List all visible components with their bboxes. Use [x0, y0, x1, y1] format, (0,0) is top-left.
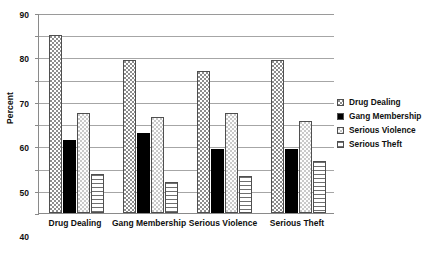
bar-group: [197, 14, 252, 213]
y-axis-tick-label: 50: [20, 188, 29, 198]
bar: [165, 182, 178, 213]
chart-legend: Drug DealingGang MembershipSerious Viole…: [337, 95, 431, 151]
bar-group: [123, 14, 178, 213]
legend-label: Serious Violence: [349, 125, 416, 135]
y-axis-tick-mark: 0: [35, 214, 39, 215]
legend-item: Gang Membership: [337, 109, 431, 123]
y-axis-title: Percent: [2, 0, 18, 215]
y-axis-tick-label: 70: [20, 99, 29, 109]
bar: [313, 161, 326, 213]
bar: [91, 174, 104, 213]
bar: [151, 117, 164, 213]
legend-item: Drug Dealing: [337, 95, 431, 109]
x-axis-label: Drug Dealing: [49, 218, 102, 228]
bar-group: [49, 14, 104, 213]
y-axis-tick-label: 80: [20, 54, 29, 64]
x-axis-label: Gang Membership: [112, 218, 186, 228]
legend-label: Gang Membership: [349, 111, 421, 121]
bar: [63, 140, 76, 213]
legend-item: Serious Theft: [337, 137, 431, 151]
bar: [239, 176, 252, 213]
x-axis-label: Serious Violence: [189, 218, 257, 228]
bar: [197, 71, 210, 213]
legend-swatch: [337, 141, 344, 148]
legend-swatch: [337, 127, 344, 134]
bar: [299, 121, 312, 213]
y-axis-tick-label: 60: [20, 143, 29, 153]
bar: [225, 113, 238, 213]
bar: [285, 149, 298, 213]
legend-item: Serious Violence: [337, 123, 431, 137]
x-axis-label: Serious Theft: [270, 218, 324, 228]
y-axis-tick-label: 90: [20, 10, 29, 20]
plot-area: 0102030405060708090: [38, 14, 334, 214]
bar-group: [271, 14, 326, 213]
y-axis-tick-label: 40: [20, 232, 29, 242]
bar: [271, 60, 284, 213]
bars-layer: [39, 14, 334, 213]
bar: [123, 60, 136, 213]
bar: [77, 113, 90, 213]
legend-swatch: [337, 113, 344, 120]
bar-chart: Percent 0102030405060708090 Drug Dealing…: [0, 0, 433, 257]
plot-frame: 0102030405060708090: [38, 14, 334, 214]
y-axis-title-label: Percent: [5, 92, 15, 124]
bar: [211, 149, 224, 213]
bar: [49, 35, 62, 213]
legend-label: Serious Theft: [349, 139, 402, 149]
x-axis-labels: Drug DealingGang MembershipSerious Viole…: [38, 216, 334, 236]
legend-swatch: [337, 99, 344, 106]
bar: [137, 133, 150, 213]
legend-label: Drug Dealing: [349, 97, 401, 107]
